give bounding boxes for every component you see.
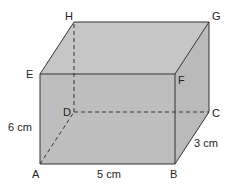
vertex-label-E: E	[26, 68, 33, 80]
vertex-label-B: B	[170, 168, 177, 180]
front-face	[40, 74, 175, 164]
dimension-length-label: 5 cm	[97, 168, 121, 180]
vertex-label-H: H	[65, 10, 73, 22]
cuboid-diagram: H G E F D C A B 6 cm 5 cm 3 cm	[0, 0, 231, 184]
dimension-height-label: 6 cm	[8, 121, 32, 133]
vertex-label-A: A	[32, 168, 40, 180]
vertex-label-F: F	[178, 74, 185, 86]
dimension-width-label: 3 cm	[194, 137, 218, 149]
vertex-label-G: G	[212, 10, 221, 22]
vertex-label-C: C	[212, 107, 220, 119]
cuboid-svg: H G E F D C A B 6 cm 5 cm 3 cm	[0, 0, 231, 184]
vertex-label-D: D	[63, 106, 71, 118]
